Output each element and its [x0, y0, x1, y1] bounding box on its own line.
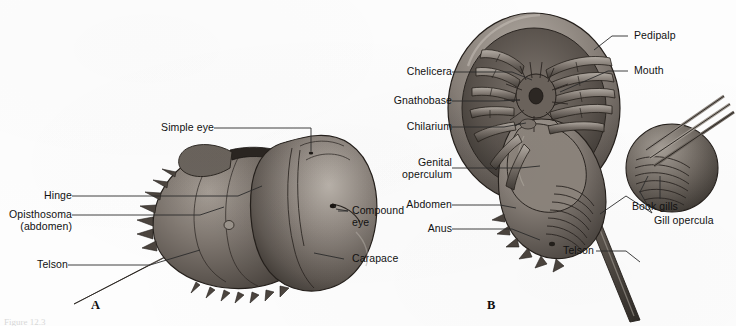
- mouth-opening: [529, 88, 543, 104]
- label-telson-dorsal: Telson: [20, 259, 68, 271]
- label-chelicera: Chelicera: [386, 66, 452, 78]
- label-genital-operculum: Genital operculum: [378, 157, 452, 180]
- anatomy-illustration: [0, 0, 736, 326]
- label-opisthosoma: Opisthosoma (abdomen): [0, 209, 72, 232]
- label-hinge: Hinge: [20, 190, 72, 202]
- label-gill-opercula: Gill opercula: [654, 215, 734, 227]
- label-simple-eye: Simple eye: [128, 122, 214, 134]
- panel-letter-b: B: [487, 298, 495, 313]
- label-gnathobase: Gnathobase: [374, 95, 452, 107]
- panel-a-dorsal-artwork: [74, 135, 377, 304]
- compound-eye-marker: [330, 204, 336, 208]
- simple-eye-marker: [309, 151, 313, 154]
- label-abdomen: Abdomen: [386, 199, 452, 211]
- label-anus: Anus: [404, 223, 452, 235]
- label-chilarium: Chilarium: [382, 121, 452, 133]
- label-book-gills: Book gills: [632, 201, 702, 213]
- label-pedipalp: Pedipalp: [634, 30, 704, 42]
- label-carapace: Carapace: [352, 253, 422, 265]
- figure-horseshoe-crab-anatomy: Simple eye Hinge Opisthosoma (abdomen) T…: [0, 0, 736, 326]
- figure-caption-fragment: Figure 12.3: [4, 317, 46, 326]
- panel-letter-a: A: [91, 298, 100, 313]
- label-mouth: Mouth: [634, 65, 694, 77]
- label-telson-ventral: Telson: [546, 245, 594, 257]
- panel-b-ventral-artwork: [448, 13, 734, 322]
